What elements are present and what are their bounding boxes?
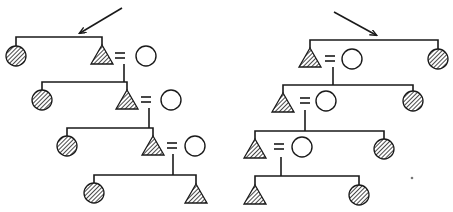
affected-male-triangle-icon [244,185,266,204]
sibship-line [310,40,438,49]
marriage-equals-icon [274,144,284,149]
sibship-line [67,128,153,136]
spouse-open-circle-icon [316,91,336,111]
affected-female-circle-icon [57,136,77,156]
affected-female-circle-icon [374,139,394,159]
spouse-open-circle-icon [136,46,156,66]
spouse-open-circle-icon [342,49,362,69]
affected-male-triangle-icon [272,93,294,112]
generation-3 [57,128,205,175]
sibship-line [42,82,127,90]
generation-4 [84,175,207,203]
affected-female-circle-icon [84,183,104,203]
marriage-equals-icon [141,97,151,102]
spouse-open-circle-icon [161,90,181,110]
affected-female-circle-icon [349,185,369,205]
affected-male-triangle-icon [91,45,113,64]
sibship-line [94,175,196,184]
marriage-equals-icon [115,53,125,58]
generation-1 [299,40,448,85]
sibship-line [255,131,384,139]
affected-male-triangle-icon [299,48,321,67]
affected-male-triangle-icon [116,90,138,109]
generation-3 [244,131,394,176]
pedigree-left [6,8,207,203]
marriage-equals-icon [325,56,335,61]
generation-2 [32,82,181,128]
scan-artifacts [411,177,414,180]
spouse-open-circle-icon [185,136,205,156]
generation-2 [272,85,423,131]
pedigree-figure [0,0,453,212]
generation-1 [6,37,156,82]
sibship-line [255,176,359,185]
marriage-equals-icon [167,143,177,148]
affected-female-circle-icon [403,91,423,111]
pedigree-right [244,12,448,205]
affected-female-circle-icon [32,90,52,110]
stray-dot [411,177,414,180]
marriage-equals-icon [300,98,310,103]
spouse-open-circle-icon [292,137,312,157]
affected-female-circle-icon [6,46,26,66]
generation-4 [244,176,369,205]
proband-arrow-icon [334,12,376,35]
affected-female-circle-icon [428,49,448,69]
pedigree-canvas [0,0,453,212]
sibship-line [283,85,413,93]
affected-male-triangle-icon [244,139,266,158]
affected-male-triangle-icon [185,184,207,203]
affected-male-triangle-icon [142,136,164,155]
sibship-line [16,37,102,46]
proband-arrow-icon [80,8,122,33]
